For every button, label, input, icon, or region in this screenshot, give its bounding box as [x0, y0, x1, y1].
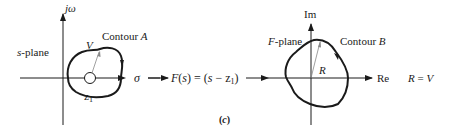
relation-label: R = V — [407, 72, 434, 84]
radius-r-label: R — [318, 64, 326, 76]
zero-z1-marker — [85, 73, 96, 84]
contour-a-arrow-icon — [120, 60, 124, 67]
radius-r-arrow-icon — [318, 41, 321, 48]
re-axis-label: Re — [377, 72, 389, 84]
contour-b-curve — [285, 40, 348, 107]
contour-b-label: Contour B — [340, 35, 386, 47]
contour-a-curve — [68, 48, 123, 98]
contour-mapping-diagram: jω s-plane V Contour A σ z1 F(s) = (s − … — [0, 0, 451, 136]
mapping-function-label: F(s) = (s − z1) — [170, 71, 239, 86]
panel-label: (c) — [219, 114, 230, 126]
zero-z1-label: z1 — [84, 90, 93, 104]
mapping-group: F(s) = (s − z1) — [148, 71, 268, 86]
s-plane-label: s-plane — [17, 46, 49, 58]
f-plane-vertical-axis-label: Im — [304, 8, 317, 20]
s-plane-group: jω s-plane V Contour A σ z1 — [17, 2, 160, 125]
radius-v-arrow-icon — [98, 51, 101, 58]
f-plane-label: F-plane — [267, 35, 302, 47]
s-plane-vertical-axis-label: jω — [63, 2, 76, 14]
contour-a-label: Contour A — [102, 30, 148, 42]
f-plane-group: Im F-plane Contour B R Re R = V — [267, 8, 434, 125]
sigma-label: σ — [134, 71, 141, 85]
